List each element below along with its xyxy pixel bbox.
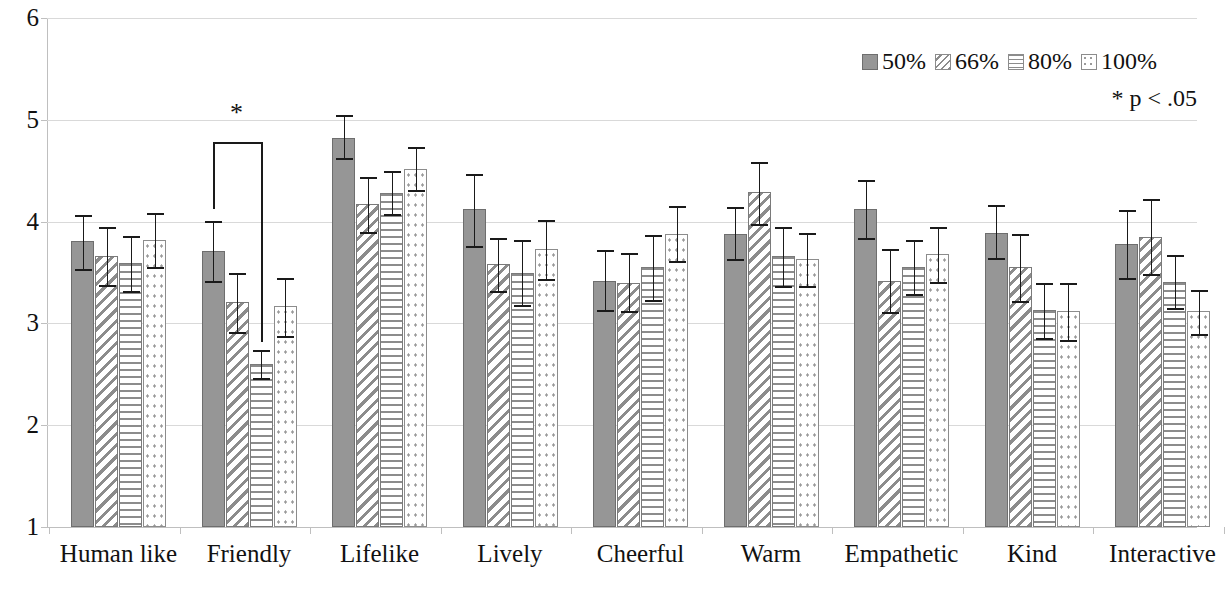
error-bar-cap-upper	[253, 350, 270, 352]
bar-group	[202, 18, 297, 527]
error-bar-cap-upper	[882, 249, 899, 251]
error-bar-cap-lower	[1119, 278, 1136, 280]
error-bar-cap-upper	[906, 240, 923, 242]
error-bar	[131, 236, 132, 291]
bar[interactable]	[535, 249, 558, 527]
bar[interactable]	[1033, 310, 1056, 527]
significance-bracket-left-leg	[213, 142, 215, 209]
error-bar	[1127, 210, 1128, 277]
error-bar-cap-upper	[1036, 283, 1053, 285]
bar[interactable]	[1139, 237, 1162, 527]
legend-item[interactable]: 50%	[862, 48, 926, 75]
legend-item[interactable]: 66%	[935, 48, 999, 75]
bar[interactable]	[902, 267, 925, 527]
error-bar-cap-upper	[727, 207, 744, 209]
error-bar-cap-lower	[1060, 340, 1077, 342]
bar[interactable]	[332, 138, 355, 527]
bar[interactable]	[511, 273, 534, 528]
bar-group	[71, 18, 166, 527]
error-bar-cap-upper	[1119, 210, 1136, 212]
legend-label: 100%	[1101, 48, 1157, 75]
bar[interactable]	[926, 254, 949, 527]
error-bar-cap-upper	[229, 273, 246, 275]
bar[interactable]	[617, 283, 640, 527]
error-bar	[996, 205, 997, 258]
error-bar-cap-lower	[645, 300, 662, 302]
y-axis-tick-label: 2	[9, 412, 39, 437]
bar[interactable]	[665, 234, 688, 527]
bar[interactable]	[878, 281, 901, 527]
error-bar-cap-lower	[205, 281, 222, 283]
error-bar-cap-upper	[147, 213, 164, 215]
bar[interactable]	[1009, 267, 1032, 527]
error-bar	[866, 180, 867, 238]
bar[interactable]	[487, 264, 510, 527]
x-tick-mark	[832, 527, 833, 534]
bar-group	[463, 18, 558, 527]
error-bar-cap-upper	[466, 174, 483, 176]
error-bar-cap-lower	[384, 214, 401, 216]
bar[interactable]	[854, 209, 877, 527]
error-bar-cap-lower	[1012, 301, 1029, 303]
error-bar-cap-upper	[858, 180, 875, 182]
bar[interactable]	[985, 233, 1008, 527]
error-bar-cap-lower	[466, 246, 483, 248]
bar[interactable]	[404, 169, 427, 527]
error-bar-cap-lower	[858, 238, 875, 240]
error-bar-cap-lower	[75, 269, 92, 271]
error-bar-cap-lower	[597, 310, 614, 312]
legend-item[interactable]: 80%	[1008, 48, 1072, 75]
error-bar-cap-upper	[751, 162, 768, 164]
error-bar-cap-lower	[253, 378, 270, 380]
bar[interactable]	[250, 364, 273, 527]
error-bar-cap-upper	[360, 177, 377, 179]
error-bar	[155, 213, 156, 267]
bar[interactable]	[1187, 311, 1210, 527]
bar[interactable]	[463, 209, 486, 527]
error-bar-cap-lower	[360, 232, 377, 234]
bar-group	[593, 18, 688, 527]
error-bar-cap-lower	[514, 305, 531, 307]
bar[interactable]	[796, 259, 819, 527]
error-bar	[368, 177, 369, 232]
error-bar-cap-lower	[123, 291, 140, 293]
bar[interactable]	[202, 251, 225, 527]
bar[interactable]	[226, 302, 249, 527]
error-bar	[83, 215, 84, 269]
x-tick-mark	[180, 527, 181, 534]
error-bar	[1044, 283, 1045, 338]
error-bar	[629, 253, 630, 311]
x-tick-mark	[1224, 527, 1225, 534]
bar[interactable]	[748, 192, 771, 527]
significance-bracket-right-leg	[261, 142, 263, 342]
error-bar	[677, 206, 678, 261]
legend-item[interactable]: 100%	[1081, 48, 1157, 75]
error-bar-cap-upper	[99, 227, 116, 229]
bar[interactable]	[641, 267, 664, 527]
bar[interactable]	[95, 256, 118, 527]
bar[interactable]	[356, 204, 379, 527]
error-bar	[1199, 290, 1200, 334]
bar[interactable]	[772, 256, 795, 527]
bar[interactable]	[593, 281, 616, 527]
error-bar-cap-upper	[514, 240, 531, 242]
error-bar-cap-upper	[1012, 234, 1029, 236]
error-bar-cap-upper	[988, 205, 1005, 207]
error-bar-cap-lower	[621, 311, 638, 313]
error-bar-cap-upper	[490, 238, 507, 240]
bar[interactable]	[143, 240, 166, 527]
bar[interactable]	[274, 306, 297, 527]
error-bar-cap-upper	[205, 221, 222, 223]
bar[interactable]	[119, 263, 142, 527]
bar[interactable]	[380, 193, 403, 527]
bar[interactable]	[724, 234, 747, 527]
error-bar-cap-upper	[336, 115, 353, 117]
bar[interactable]	[1163, 282, 1186, 527]
y-axis-tick-label: 3	[9, 310, 39, 335]
bar[interactable]	[1115, 244, 1138, 527]
error-bar-cap-lower	[799, 286, 816, 288]
bar[interactable]	[1057, 311, 1080, 527]
bar[interactable]	[71, 241, 94, 527]
bar-group	[724, 18, 819, 527]
